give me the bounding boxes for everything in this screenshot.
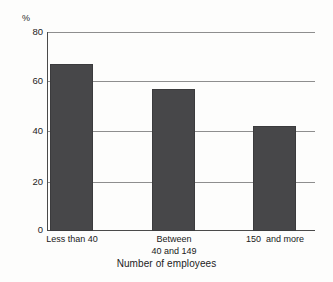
y-tick-label-60: 60 (21, 75, 43, 86)
y-axis-unit-label: % (22, 13, 30, 23)
category-label-2: 150 and more (233, 234, 317, 246)
y-tick-label-20: 20 (21, 176, 43, 187)
y-axis-line (47, 32, 48, 231)
bar-less-than-40[interactable] (50, 64, 93, 231)
y-tick-label-80: 80 (21, 26, 43, 37)
gridline-80 (47, 32, 315, 33)
category-label-0: Less than 40 (31, 234, 113, 246)
y-tick-label-40: 40 (21, 125, 43, 136)
x-axis-title: Number of employees (0, 258, 333, 269)
bar-150-and-more[interactable] (253, 126, 296, 231)
bar-between-40-and-149[interactable] (152, 89, 195, 231)
bar-chart: % 80 60 40 20 0 Less than 40 Between 40 … (0, 0, 333, 282)
category-label-1: Between 40 and 149 (133, 234, 215, 257)
